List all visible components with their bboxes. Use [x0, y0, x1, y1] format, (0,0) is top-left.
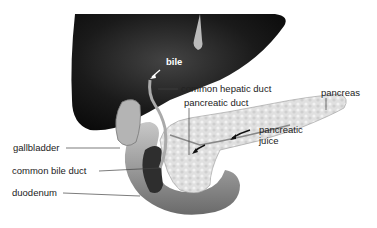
label-pancreatic-juice-line1: pancreatic	[259, 125, 303, 135]
label-pancreatic-duct: pancreatic duct	[184, 98, 248, 108]
label-pancreas: pancreas	[321, 88, 360, 98]
label-gallbladder: gallbladder	[13, 143, 59, 153]
label-common-hepatic-duct: common hepatic duct	[181, 84, 271, 94]
label-duodenum: duodenum	[12, 188, 57, 198]
pancreas-shape	[160, 94, 346, 193]
label-pancreatic-juice-line2: juice	[259, 136, 279, 146]
label-common-bile-duct: common bile duct	[12, 166, 86, 176]
anatomy-diagram: bile common hepatic duct pancreatic duct…	[0, 0, 377, 228]
gallbladder-shape	[116, 100, 141, 146]
label-bile: bile	[166, 57, 182, 67]
